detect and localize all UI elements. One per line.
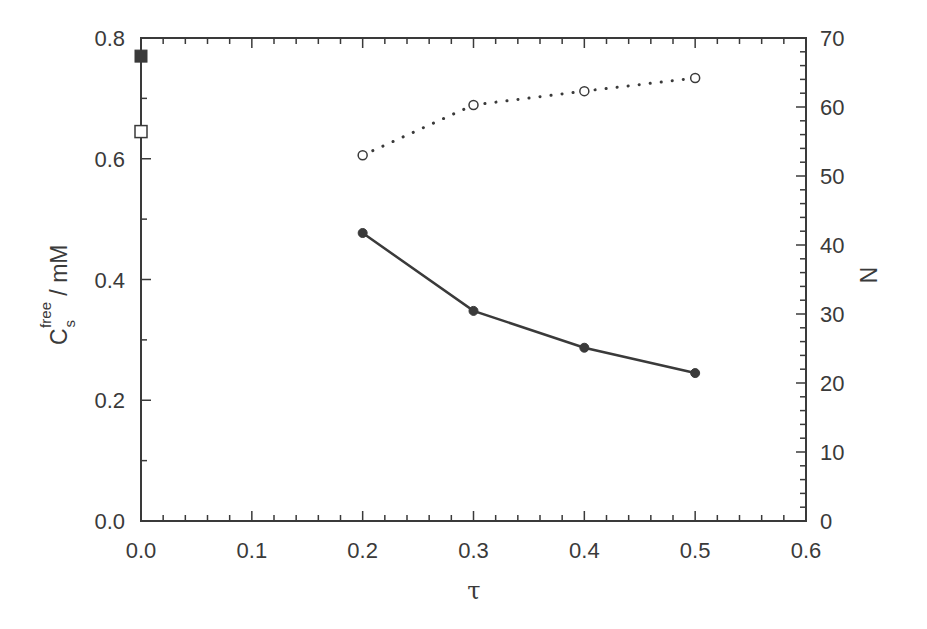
x-tick-label: 0.4 — [569, 538, 600, 563]
c-free-series-line — [363, 233, 696, 373]
y-tick-label: 0.4 — [94, 268, 125, 293]
y-axis-title-sup: free — [37, 302, 54, 328]
open-circle-marker — [358, 151, 367, 160]
y-axis-tick-labels: 0.00.20.40.60.8 — [94, 26, 125, 534]
axes-frame — [141, 38, 806, 521]
y2-tick-label: 40 — [820, 233, 844, 258]
x-axis-title: τ — [467, 577, 480, 605]
y2-tick-label: 10 — [820, 440, 844, 465]
x-tick-label: 0.6 — [791, 538, 822, 563]
y2-tick-label: 0 — [820, 509, 832, 534]
plot-frame — [141, 38, 806, 521]
svg-text:Csfree / mM: Csfree / mM — [37, 245, 78, 345]
y-axis-title-sub: s — [61, 320, 78, 328]
y2-tick-label: 70 — [820, 26, 844, 51]
y2-tick-label: 50 — [820, 164, 844, 189]
filled-square-marker — [135, 50, 147, 62]
y2-tick-label: 20 — [820, 371, 844, 396]
y2-axis-tick-labels: 010203040506070 — [820, 26, 844, 534]
x-tick-label: 0.3 — [458, 538, 489, 563]
x-axis-tick-labels: 0.00.10.20.30.40.50.6 — [126, 538, 822, 563]
n-series-line — [363, 78, 696, 155]
open-circle-marker — [469, 100, 478, 109]
y-axis-title-main: C — [46, 328, 72, 345]
x-tick-label: 0.2 — [347, 538, 378, 563]
x-tick-label: 0.0 — [126, 538, 157, 563]
y2-tick-label: 30 — [820, 302, 844, 327]
y-axis-title-unit: / mM — [46, 245, 72, 303]
y-tick-label: 0.2 — [94, 388, 125, 413]
open-circle-marker — [691, 74, 700, 83]
y-tick-label: 0.8 — [94, 26, 125, 51]
axis-ticks — [141, 38, 806, 521]
filled-circle-marker — [691, 369, 700, 378]
data-series — [135, 50, 700, 377]
filled-circle-marker — [580, 343, 589, 352]
open-circle-marker — [580, 87, 589, 96]
x-tick-label: 0.1 — [237, 538, 268, 563]
y-tick-label: 0.6 — [94, 147, 125, 172]
open-square-marker — [135, 126, 147, 138]
chart: 0.00.10.20.30.40.50.6 0.00.20.40.60.8 01… — [0, 0, 927, 629]
filled-circle-marker — [469, 306, 478, 315]
y2-axis-title: N — [855, 267, 881, 284]
y-tick-label: 0.0 — [94, 509, 125, 534]
x-tick-label: 0.5 — [680, 538, 711, 563]
y2-tick-label: 60 — [820, 95, 844, 120]
y-axis-title: Csfree / mM — [37, 245, 78, 345]
filled-circle-marker — [358, 229, 367, 238]
